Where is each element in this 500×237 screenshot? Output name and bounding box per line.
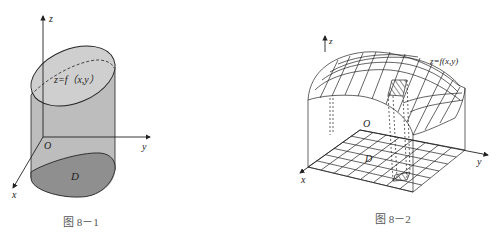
- x-axis-label: x: [300, 174, 306, 185]
- figure-8-2: z y x O z=f(x,y) D 图 8－2: [260, 0, 500, 237]
- cylinder-diagram: z y x O z=f（x,y） D: [0, 0, 200, 237]
- base-grid: [308, 130, 465, 192]
- origin-label: O: [363, 118, 370, 129]
- figure-caption: 图 8－2: [375, 210, 411, 226]
- y-axis-label: y: [476, 156, 482, 167]
- x-axis: [300, 130, 360, 173]
- surface-patch: [388, 80, 407, 96]
- base-patch: [393, 172, 410, 181]
- z-axis-label: z: [328, 36, 333, 46]
- surface-label: z=f(x,y): [429, 56, 458, 66]
- figure-caption: 图 8－1: [63, 213, 99, 229]
- z-axis-label: z: [48, 13, 53, 24]
- x-axis-label: x: [11, 189, 17, 200]
- y-axis-label: y: [141, 141, 147, 152]
- origin-label: O: [44, 140, 51, 151]
- surface-grid-diagram: z y x O z=f(x,y) D: [260, 0, 500, 237]
- region-label: D: [364, 153, 373, 164]
- y-axis: [360, 130, 488, 155]
- surface-label: z=f（x,y）: [53, 74, 99, 85]
- region-label: D: [70, 170, 79, 182]
- figure-8-1: z y x O z=f（x,y） D 图 8－1: [0, 0, 200, 237]
